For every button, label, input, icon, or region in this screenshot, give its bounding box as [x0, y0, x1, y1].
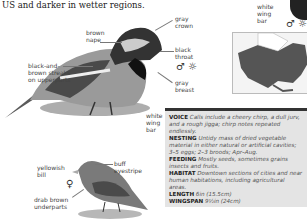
- male-sparrow-illustration: [0, 20, 165, 120]
- info-wingspan: WINGSPAN 9½in (24cm): [169, 198, 303, 205]
- info-nesting: NESTING Untidy mass of dried vegetable m…: [169, 135, 303, 156]
- leader-line: [95, 164, 113, 165]
- range-map: [232, 32, 307, 94]
- label-brown-nape: brown nape: [86, 29, 105, 43]
- intro-text: US and darker in wetter regions.: [2, 0, 145, 10]
- male-symbol-top: ♂: [286, 18, 295, 29]
- cropped-bird: [290, 0, 307, 20]
- label-gray-breast: gray breast: [175, 79, 194, 93]
- label-drab-underparts: drab brown underparts: [34, 196, 68, 210]
- label-buff-eyestripe: buff eyestripe: [114, 160, 142, 174]
- sun-symbol: ☼: [188, 61, 197, 72]
- label-white-wing-bar-top: white wing bar: [257, 3, 273, 24]
- info-voice: VOICE Calls include a cheery chirp, a du…: [169, 114, 303, 135]
- leader-line: [63, 66, 93, 67]
- north-america-map: [233, 33, 307, 93]
- info-feeding: FEEDING Mostly seeds, sometimes grains i…: [169, 156, 303, 170]
- sun-symbol-top: ☼: [298, 18, 307, 29]
- label-white-wing-bar: white wing bar: [146, 112, 162, 133]
- leader-line: [160, 51, 174, 52]
- leader-line: [100, 42, 122, 43]
- female-symbol: ♀: [66, 178, 73, 189]
- info-length: LENGTH 6in (15.5cm): [169, 191, 303, 198]
- label-gray-crown: gray crown: [175, 15, 193, 29]
- label-yellowish-bill: yellowish bill: [37, 164, 65, 178]
- male-symbol: ♂: [176, 61, 185, 72]
- label-black-throat: black throat: [175, 46, 193, 60]
- species-info-box: VOICE Calls include a cheery chirp, a du…: [165, 108, 307, 207]
- info-habitat: HABITAT Downtown sections of cities and …: [169, 170, 303, 191]
